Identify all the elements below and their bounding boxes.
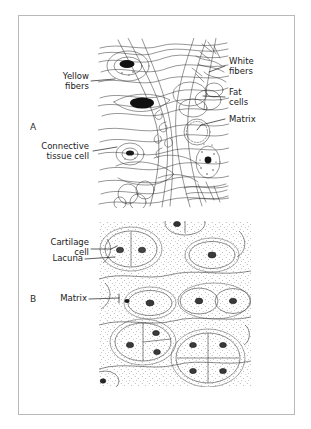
- label-white-fibers: White fibers: [229, 57, 289, 76]
- label-yellow-fibers: Yellow fibers: [27, 72, 89, 91]
- label-connective-tissue-cell: Connective tissue cell: [21, 142, 89, 161]
- label-matrix-a: Matrix: [229, 115, 289, 125]
- label-lacuna: Lacuna: [27, 254, 83, 264]
- label-matrix-b: Matrix: [27, 294, 87, 304]
- figure-frame: A: [18, 15, 295, 415]
- label-fat-cells: Fat cells: [229, 88, 289, 107]
- panel-a-letter: A: [30, 122, 36, 132]
- panel-b-illustration: [99, 221, 251, 387]
- panel-a-illustration: [98, 38, 229, 208]
